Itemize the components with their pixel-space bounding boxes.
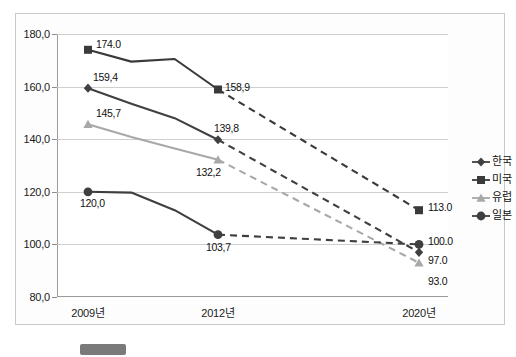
circle-marker bbox=[477, 211, 486, 220]
legend-item-label: 유럽 bbox=[492, 188, 511, 204]
circle-marker bbox=[84, 187, 93, 196]
data-point-label: 159,4 bbox=[93, 71, 118, 83]
caption-chip bbox=[80, 344, 126, 355]
y-axis-tick-label: 100,0 bbox=[23, 238, 50, 250]
square-marker bbox=[415, 206, 423, 214]
circle-marker bbox=[214, 230, 223, 239]
y-axis-tick-label: 120,0 bbox=[23, 186, 50, 198]
square-marker bbox=[84, 46, 92, 54]
dashed-projection-segment bbox=[218, 89, 419, 210]
data-point-label: 93.0 bbox=[428, 275, 447, 287]
series-한국 bbox=[84, 84, 423, 257]
triangle-marker bbox=[471, 190, 491, 202]
square-marker bbox=[471, 172, 491, 184]
chart-legend: 한국미국유럽일본 bbox=[471, 152, 516, 221]
plot-area: 174.0159,4145,7120,0158,9139,8132,2103,7… bbox=[57, 34, 448, 297]
data-point-label: 100.0 bbox=[428, 235, 453, 247]
x-axis-tick-label: 2009년 bbox=[71, 304, 104, 320]
solid-segment bbox=[88, 50, 218, 90]
diamond-marker bbox=[214, 135, 222, 144]
diamond-marker bbox=[415, 248, 423, 257]
caption-strip bbox=[0, 340, 516, 357]
data-point-label: 132,2 bbox=[196, 166, 221, 178]
circle-marker bbox=[471, 208, 491, 220]
legend-item-label: 미국 bbox=[492, 170, 511, 186]
legend-item-미국[interactable]: 미국 bbox=[471, 170, 516, 185]
y-axis-tick-label: 140,0 bbox=[23, 133, 50, 145]
data-point-label: 120,0 bbox=[80, 197, 105, 209]
triangle-marker bbox=[83, 120, 92, 128]
solid-segment bbox=[88, 192, 218, 235]
chart-frame: 174.0159,4145,7120,0158,9139,8132,2103,7… bbox=[15, 13, 505, 325]
data-point-label: 158,9 bbox=[225, 81, 250, 93]
diamond-marker bbox=[477, 157, 485, 166]
x-axis-tick-label: 2012년 bbox=[201, 304, 234, 320]
x-axis-tick-label: 2020년 bbox=[402, 304, 435, 320]
legend-item-유럽[interactable]: 유럽 bbox=[471, 188, 516, 203]
y-axis-tick bbox=[52, 297, 57, 298]
legend-item-일본[interactable]: 일본 bbox=[471, 206, 516, 221]
data-point-label: 174.0 bbox=[96, 38, 121, 50]
y-axis-tick-label: 180,0 bbox=[23, 28, 50, 40]
data-point-label: 145,7 bbox=[96, 107, 121, 119]
dashed-projection-segment bbox=[218, 160, 419, 263]
y-axis-tick-label: 80,0 bbox=[29, 291, 50, 303]
chart-figure: 174.0159,4145,7120,0158,9139,8132,2103,7… bbox=[0, 0, 516, 357]
data-point-label: 113.0 bbox=[428, 201, 452, 213]
circle-marker bbox=[415, 240, 424, 249]
legend-item-label: 일본 bbox=[492, 206, 511, 222]
diamond-marker bbox=[471, 154, 491, 166]
diamond-marker bbox=[84, 84, 92, 93]
y-axis-tick-label: 160,0 bbox=[23, 81, 50, 93]
legend-item-label: 한국 bbox=[492, 152, 511, 168]
triangle-marker bbox=[414, 258, 423, 266]
data-point-label: 103,7 bbox=[206, 241, 231, 253]
legend-item-한국[interactable]: 한국 bbox=[471, 152, 516, 167]
data-point-label: 97.0 bbox=[428, 254, 447, 266]
series-미국 bbox=[84, 46, 423, 214]
data-point-label: 139,8 bbox=[214, 122, 239, 134]
square-marker bbox=[214, 85, 222, 93]
square-marker bbox=[477, 176, 485, 184]
